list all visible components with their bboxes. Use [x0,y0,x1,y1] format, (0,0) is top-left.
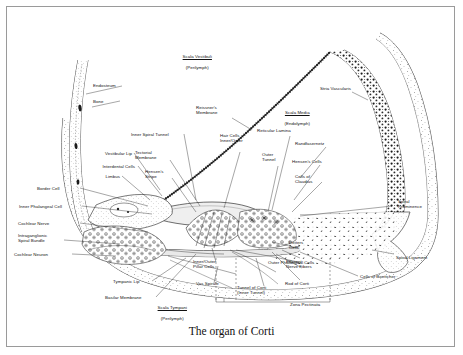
label-inner-spiral-tunnel: Inner Spiral Tunnel [131,132,169,137]
label-spiral-prominence: Spiral Prominence [398,199,422,209]
label-tunnel-of-corti: Tunnel of Corti (Inner Tunnel) [237,285,266,295]
label-inner-outer-pillar-cells: Inner/Outer Pillar Cells [193,259,216,269]
label-randfasernetz: Randfasernetz [295,141,324,146]
label-limbus: Limbus [66,174,120,179]
label-cells-of-claudius: Cells of Claudius [295,174,312,184]
label-hair-cells-inner-outer: Hair Cells Inner/Outer [220,133,243,143]
label-interdental-cells: Interdental Cells [39,164,135,169]
label-tympanic-lip: Tympanic Lip [113,279,139,284]
label-rod-of-corti: Rod of Corti [285,281,309,286]
label-hensens-cells: Hensen's Cells [292,159,322,164]
label-vestibular-lip: Vestibular Lip [46,151,132,156]
compartment-scala-media: Scala Media (Endolymph) [266,105,326,126]
label-inner-phalangeal-cell: Inner Phalangeal Cell [19,204,62,209]
label-stria-vascularis: Stria Vascularis [285,86,351,91]
label-intraganglionic-spiral-bundle: Intraganglionic Spiral Bundle [18,233,47,243]
limbus-shape [88,194,172,230]
label-zona-pectinata: Zona Pectinata [290,302,320,307]
label-outer-phalangeal-cells: Outer Phalangeal Cells [268,260,314,265]
spiral-ganglion-region [82,226,166,264]
label-reissners-membrane: Reissner's Membrane [196,105,217,115]
label-outer-tunnel: Outer Tunnel [262,152,276,162]
label-bone: Bone [93,99,103,104]
organ-of-corti-cells [186,209,296,248]
label-cells-of-boettcher: Cells of Boettcher [360,274,396,279]
figure-title: The organ of Corti [0,325,463,337]
label-tectorial-membrane: Tectorial Membrane [135,150,156,160]
label-reticular-lamina: Reticular Lamina [257,128,291,133]
label-endosteum: Endosteum [93,83,116,88]
stria-vascularis-shape [330,50,405,238]
compartment-scala-vestibuli: Scala Vestibuli (Perilymph) [166,49,226,70]
label-vas-spirale: Vas Spirale [196,281,219,286]
label-cochlear-nerve: Cochlear Nerve [18,221,49,226]
label-border-cell: Border Cell [37,186,60,191]
label-spiral-ligament: Spiral Ligament [396,255,427,260]
label-hensens-stripe: Hensen's Stripe [145,169,164,179]
label-basilar-membrane: Basilar Membrane [105,295,141,300]
compartment-scala-tympani: Scala Tympani (Perilymph) [141,300,201,321]
label-deiters-cells: Deiters Cells [289,240,303,250]
label-cochlear-neuron: Cochlear Neuron [14,252,48,257]
